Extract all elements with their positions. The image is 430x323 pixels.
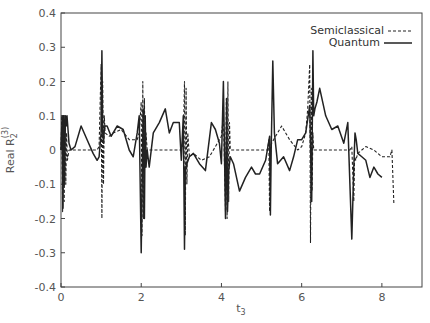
y-axis-ticks: 0.40.30.20.10-0.1-0.2-0.3-0.4 (35, 7, 65, 294)
x-tick-label: 8 (378, 291, 385, 304)
y-axis-label: Real R2(3) (1, 127, 19, 173)
x-axis-label: t3 (236, 302, 245, 317)
x-tick-label: 4 (218, 291, 225, 304)
y-tick-label: 0 (49, 144, 56, 157)
y-tick-label: -0.3 (35, 247, 56, 260)
x-tick-label: 6 (298, 291, 305, 304)
y-tick-label: 0.4 (39, 7, 57, 20)
legend: Semiclassical Quantum (310, 24, 412, 49)
y-tick-label: -0.2 (35, 213, 56, 226)
y-tick-label: -0.4 (35, 281, 56, 294)
series-layer (61, 51, 394, 253)
x-tick-label: 2 (138, 291, 145, 304)
y-tick-label: -0.1 (35, 178, 56, 191)
x-axis-ticks: 02468 (58, 283, 386, 304)
y-tick-label: 0.1 (39, 110, 57, 123)
x-tick-label: 0 (58, 291, 65, 304)
y-tick-label: 0.2 (39, 76, 57, 89)
legend-label-quantum: Quantum (329, 36, 380, 49)
line-chart: 0.40.30.20.10-0.1-0.2-0.3-0.4 02468 t3 R… (0, 0, 430, 323)
series-line-quantum (61, 51, 382, 253)
y-tick-label: 0.3 (39, 41, 57, 54)
